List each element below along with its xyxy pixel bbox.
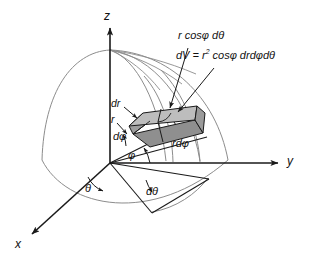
volume-formula-prefix: dV = [176, 49, 202, 61]
d-theta-label: dθ [146, 186, 158, 197]
leader-volume-formula [178, 68, 214, 112]
sphere-arc-zx [42, 50, 110, 160]
x-axis-line [32, 163, 110, 234]
theta-label: θ [85, 183, 91, 194]
leader-dr [124, 107, 137, 118]
theta-wedge-chord [152, 179, 209, 213]
dr-label: dr [111, 98, 120, 109]
d-phi-label: dφ [113, 131, 126, 142]
z-axis-label: z [104, 10, 110, 22]
phi-arc [144, 148, 150, 163]
r-d-phi-label: rdφ [172, 138, 189, 149]
volume-formula-label: dV = r2 cosφ drdφdθ [176, 50, 275, 61]
spherical-coordinates-diagram: z y x r cosφ dθ dV = r2 cosφ drdφdθ dr r… [0, 0, 309, 260]
x-axis-label: x [15, 238, 21, 250]
arc-length-theta-label: r cosφ dθ [178, 30, 224, 41]
theta-wedge-rays [110, 163, 209, 213]
theta-ray-upper [110, 163, 209, 179]
r-label: r [111, 114, 115, 125]
sphere-arc-xy [42, 160, 228, 203]
diagram-canvas [0, 0, 309, 260]
y-axis-label: y [287, 155, 293, 167]
volume-formula-suffix: cosφ drdφdθ [209, 49, 275, 61]
phi-label: φ [128, 150, 135, 161]
theta-wedge-arc [152, 178, 208, 212]
sphere-arc-zy [110, 50, 228, 160]
